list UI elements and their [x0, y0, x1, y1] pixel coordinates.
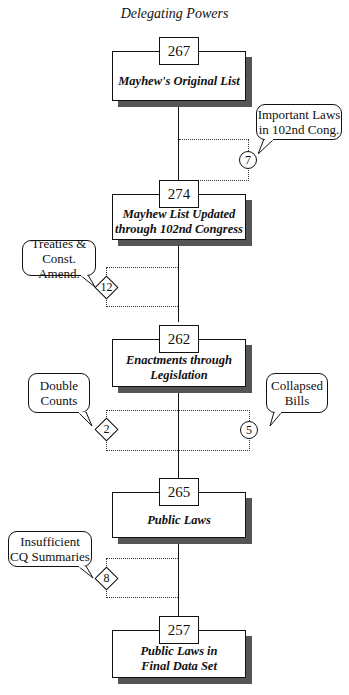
- connector-line: [178, 232, 179, 322]
- added-count-5-circle-icon: 5: [240, 421, 258, 439]
- callout-tail-icon: [268, 412, 288, 428]
- node-label: Public Laws: [147, 513, 211, 528]
- diagram-title: Delegating Powers: [0, 6, 349, 22]
- node-label: Mayhew List Updated: [115, 207, 243, 222]
- node-count-257: 257: [159, 616, 199, 644]
- callout-line: Treaties &: [23, 236, 95, 251]
- adjustment-bracket: [106, 410, 250, 451]
- callout-line: Double: [40, 378, 78, 393]
- node-count-274: 274: [159, 180, 199, 208]
- node-label: Enactments through: [126, 353, 232, 368]
- callout-insufficient-cq: InsufficientCQ Summaries: [8, 531, 92, 567]
- node-label: Mayhew's Original List: [118, 74, 240, 89]
- node-label: Legislation: [126, 368, 232, 383]
- callout-line: Insufficient: [10, 534, 90, 549]
- callout-double-counts: DoubleCounts: [28, 373, 90, 413]
- callout-tail-icon: [76, 566, 98, 580]
- added-count-7-circle-icon: 7: [239, 151, 257, 169]
- callout-collapsed-bills: CollapsedBills: [266, 373, 328, 413]
- callout-line: CQ Summaries: [10, 549, 90, 564]
- node-count-262: 262: [159, 325, 199, 353]
- callout-line: Counts: [40, 393, 78, 408]
- callout-line: Collapsed: [271, 378, 323, 393]
- node-label: through 102nd Congress: [115, 222, 243, 237]
- callout-line: in 102nd Cong.: [258, 122, 341, 137]
- callout-important-laws: Important Lawsin 102nd Cong.: [256, 104, 342, 140]
- node-count-267: 267: [159, 37, 199, 65]
- callout-tail-icon: [76, 412, 96, 428]
- node-label: Public Laws in: [140, 644, 217, 659]
- node-count-265: 265: [159, 478, 199, 506]
- callout-treaties: Treaties &Const. Amend.: [22, 240, 96, 276]
- connector-line: [178, 536, 179, 621]
- callout-line: Bills: [271, 393, 323, 408]
- removed-count-8-diamond-icon: 8: [98, 570, 115, 587]
- removed-count-2-diamond-icon: 2: [98, 421, 115, 438]
- node-label: Final Data Set: [140, 659, 217, 674]
- callout-line: Important Laws: [258, 107, 341, 122]
- callout-tail-icon: [258, 139, 280, 155]
- removed-count-12-diamond-icon: 12: [98, 279, 115, 296]
- callout-tail-icon: [78, 275, 100, 289]
